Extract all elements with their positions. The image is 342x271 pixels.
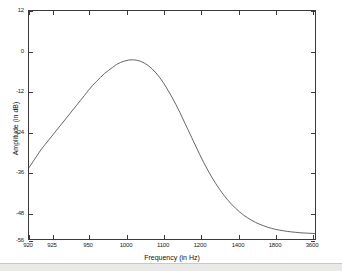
x-tick-top-1000 <box>127 11 128 15</box>
x-tick-label-1800: 1800 <box>269 242 282 248</box>
x-tick-label-920: 920 <box>23 242 32 248</box>
y-tick-right-12 <box>311 11 315 12</box>
y-tick-right-0 <box>311 52 315 53</box>
y-tick--12 <box>29 92 33 93</box>
x-tick-3600 <box>313 235 314 239</box>
x-tick-920 <box>29 235 30 239</box>
figure-container: 920925950100011001200140018003600120-12-… <box>0 0 342 271</box>
x-tick-label-925: 925 <box>47 242 56 248</box>
x-tick-label-1200: 1200 <box>194 242 207 248</box>
y-tick-12 <box>29 11 33 12</box>
y-tick-label--56: -56 <box>4 237 24 243</box>
x-tick-950 <box>89 235 90 239</box>
y-tick-0 <box>29 52 33 53</box>
x-tick-label-1400: 1400 <box>232 242 245 248</box>
y-axis-title: Amplitude (in dB) <box>12 84 19 174</box>
y-tick-right--24 <box>311 133 315 134</box>
x-tick-1000 <box>127 235 128 239</box>
x-tick-top-925 <box>53 11 54 15</box>
y-tick--24 <box>29 133 33 134</box>
y-tick-right--12 <box>311 92 315 93</box>
page-bottom-strip <box>0 263 342 271</box>
y-tick-label-0: 0 <box>4 48 24 54</box>
x-tick-1200 <box>201 235 202 239</box>
x-tick-1400 <box>239 235 240 239</box>
y-tick-right--36 <box>311 173 315 174</box>
y-tick--36 <box>29 173 33 174</box>
x-tick-label-1000: 1000 <box>120 242 133 248</box>
x-tick-925 <box>53 235 54 239</box>
x-tick-top-950 <box>89 11 90 15</box>
y-tick-right--48 <box>311 214 315 215</box>
y-tick-label--48: -48 <box>4 210 24 216</box>
x-tick-label-1100: 1100 <box>157 242 169 248</box>
x-tick-top-1400 <box>239 11 240 15</box>
x-tick-label-3600: 3600 <box>306 242 319 248</box>
amplitude-curve <box>29 11 315 239</box>
y-tick-label-12: 12 <box>4 7 24 13</box>
x-axis-title: Frequency (in Hz) <box>28 254 316 261</box>
x-tick-top-1800 <box>276 11 277 15</box>
x-tick-top-1200 <box>201 11 202 15</box>
x-tick-top-1100 <box>164 11 165 15</box>
plot-area <box>28 10 316 240</box>
x-tick-1800 <box>276 235 277 239</box>
x-tick-1100 <box>164 235 165 239</box>
y-tick--48 <box>29 214 33 215</box>
x-tick-label-950: 950 <box>83 242 92 248</box>
